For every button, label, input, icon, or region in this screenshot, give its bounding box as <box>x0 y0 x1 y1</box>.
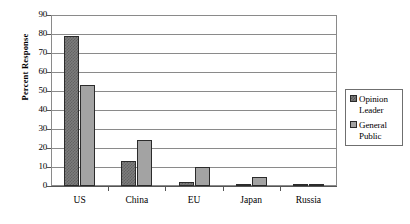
y-tick-label: 90 <box>25 10 47 19</box>
y-tick-label: 70 <box>25 48 47 57</box>
y-tick-label: 30 <box>25 124 47 133</box>
y-tick-label: 10 <box>25 162 47 171</box>
x-tick-mark <box>223 186 224 191</box>
x-tick-label-russia: Russia <box>273 195 343 206</box>
y-tick-label: 0 <box>25 181 47 190</box>
legend-entry-general-public: GeneralPublic <box>350 120 399 141</box>
y-tick-label: 20 <box>25 143 47 152</box>
bar-china-opinion-leader <box>121 161 136 186</box>
y-tick-label: 50 <box>25 86 47 95</box>
legend-swatch-icon-general-public <box>350 121 357 128</box>
y-tick-label: 60 <box>25 67 47 76</box>
bars-layer <box>51 15 337 186</box>
y-tick-label: 40 <box>25 105 47 114</box>
legend-swatch-icon-opinion-leader <box>350 95 357 102</box>
x-tick-mark <box>108 186 109 191</box>
legend-label-general-public: GeneralPublic <box>359 120 387 141</box>
bar-japan-general-public <box>252 177 267 187</box>
bar-us-opinion-leader <box>64 36 79 186</box>
chart-legend: OpinionLeader GeneralPublic <box>345 89 403 146</box>
bar-china-general-public <box>137 140 152 186</box>
bar-us-general-public <box>80 85 95 186</box>
x-tick-mark <box>165 186 166 191</box>
y-tick-label: 80 <box>25 29 47 38</box>
x-tick-mark <box>280 186 281 191</box>
legend-label-opinion-leader: OpinionLeader <box>359 94 388 115</box>
legend-entry-opinion-leader: OpinionLeader <box>350 94 399 115</box>
bar-eu-general-public <box>195 167 210 186</box>
x-axis-line <box>51 186 337 187</box>
bar-chart: Percent Response 9080706050403020100 USC… <box>0 0 410 224</box>
